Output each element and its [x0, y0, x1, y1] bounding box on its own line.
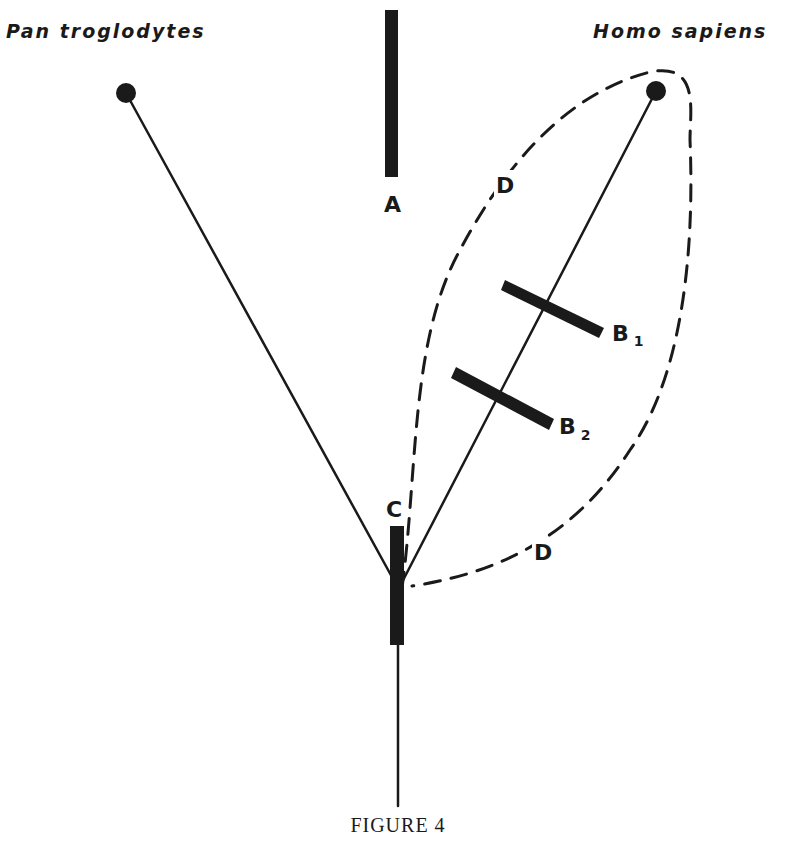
node-homo-sapiens [646, 81, 666, 101]
marker-label-d-lower: D [534, 540, 552, 565]
figure-caption: FIGURE 4 [350, 814, 445, 836]
marker-bar-b2 [451, 367, 554, 430]
taxon-label-homo-sapiens: Homo sapiens [593, 20, 767, 42]
marker-bar-a [385, 10, 398, 177]
node-pan-troglodytes [116, 83, 136, 103]
marker-label-b2: B 2 [559, 414, 591, 443]
taxon-label-pan-troglodytes: Pan troglodytes [6, 20, 206, 42]
marker-label-b1: B 1 [612, 321, 644, 349]
marker-bar-c [390, 526, 404, 645]
marker-label-a: A [384, 192, 401, 217]
branch-pan [126, 93, 398, 588]
marker-label-c: C [386, 497, 402, 522]
marker-label-d-upper: D [496, 173, 514, 198]
phylogeny-diagram: Pan troglodytes Homo sapiens A C B 1 B 2… [0, 0, 794, 842]
dashed-envelope-d [402, 71, 691, 588]
